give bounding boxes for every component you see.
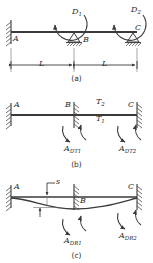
support-fixed-a: [6, 103, 11, 129]
reaction-arrow-adr1-right: [80, 216, 86, 231]
moment-arrow-d2: [114, 15, 146, 40]
torque-label-t1: T1: [96, 115, 105, 124]
reaction-arrow-adt1-right: [80, 125, 86, 140]
reaction-arrow-adr2-right: [135, 210, 141, 225]
reaction-arrow-adt1-left: [63, 126, 70, 142]
displacement-label-s: s: [56, 178, 60, 186]
reaction-arrow-adt2-left: [118, 126, 125, 142]
reaction-arrow-adr2-left: [118, 213, 125, 229]
node-label-c: C: [128, 183, 134, 191]
reaction-arrow-adr1-left: [63, 219, 70, 235]
panel-b-caption: (b): [0, 160, 153, 169]
reaction-label-adr2: ADR2: [119, 232, 137, 241]
node-label-a: A: [13, 35, 19, 43]
panel-b: A B C T2 T1 ADT1 ADT2 (b): [0, 88, 153, 175]
panel-a-caption: (a): [0, 74, 153, 83]
support-fixed-a: [6, 20, 11, 46]
reaction-label-adt2: ADT2: [119, 145, 136, 154]
panel-c-caption: (c): [0, 251, 153, 260]
node-label-c: C: [135, 24, 141, 32]
dimension-label-bc: L: [102, 59, 107, 68]
node-label-a: A: [14, 183, 20, 191]
reaction-label-adr1: ADR1: [64, 237, 82, 246]
panel-a: A B C D1 D2 L L (a): [0, 0, 153, 88]
node-label-b: B: [83, 36, 89, 44]
node-label-a: A: [14, 101, 20, 109]
torque-label-t2: T2: [96, 98, 105, 107]
node-label-b: B: [65, 101, 71, 109]
support-restraint-c: [137, 102, 142, 128]
support-fixed-a: [6, 185, 11, 211]
panel-c: A B C s ADR1 ADR2 (c): [0, 175, 153, 263]
displacement-indicator-s: [33, 183, 58, 217]
reaction-label-adt1: ADT1: [64, 145, 81, 154]
node-label-c: C: [128, 101, 134, 109]
node-label-b: B: [80, 197, 86, 205]
moment-label-d2: D2: [131, 6, 141, 15]
figure-container: A B C D1 D2 L L (a): [0, 0, 153, 263]
support-restraint-c: [137, 184, 142, 210]
dimension-label-ab: L: [39, 59, 44, 68]
reaction-arrow-adt2-right: [135, 125, 141, 140]
moment-label-d1: D1: [72, 8, 82, 17]
